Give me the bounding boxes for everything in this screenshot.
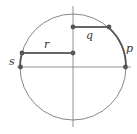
point-q-circle (107, 25, 112, 30)
point-q-axis (71, 25, 76, 30)
point-s-axis (18, 65, 23, 70)
label-r: r (44, 38, 50, 51)
unit-circle-diagram: q r p s (0, 0, 137, 134)
point-r-axis (71, 51, 76, 56)
point-r-circle (20, 51, 25, 56)
label-q: q (86, 29, 93, 42)
point-p-axis (123, 65, 128, 70)
label-s: s (9, 55, 15, 68)
label-p: p (126, 42, 133, 55)
arc-p (109, 28, 126, 67)
